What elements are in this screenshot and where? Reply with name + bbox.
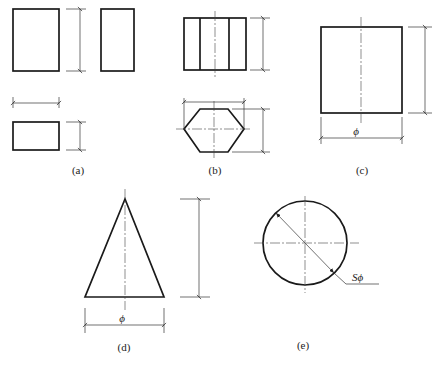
depth-dimension (66, 122, 86, 150)
top-view (13, 122, 59, 150)
panel-label-c: (c) (356, 164, 369, 177)
panel-label-b: (b) (209, 164, 222, 177)
panel-label-e: (e) (297, 339, 310, 352)
diameter-symbol: ϕ (353, 125, 359, 137)
panel-d: ϕ (d) (85, 189, 210, 354)
diameter-dimension (321, 117, 402, 144)
panel-c: ϕ (c) (321, 17, 432, 177)
panel-label-d: (d) (118, 341, 131, 354)
cone-view (85, 199, 164, 297)
height-dimension (180, 199, 210, 297)
across-flats-dimension (232, 109, 270, 152)
height-dimension (408, 27, 432, 113)
height-dimension (66, 9, 86, 71)
width-dimension (13, 97, 59, 108)
panel-a: (a) (13, 9, 134, 177)
side-view (101, 9, 134, 71)
height-dimension (250, 18, 270, 70)
cylinder-view (321, 27, 402, 113)
sphere-diameter-leader (276, 213, 379, 284)
panel-label-a: (a) (72, 164, 85, 177)
panel-b: (b) (176, 11, 270, 177)
front-view (13, 9, 59, 71)
panel-e: Sϕ (e) (254, 196, 379, 352)
diameter-symbol: ϕ (119, 312, 125, 324)
dimensioning-figure: (a) (b) (0, 0, 438, 367)
sphere-diameter-symbol: Sϕ (352, 271, 364, 283)
